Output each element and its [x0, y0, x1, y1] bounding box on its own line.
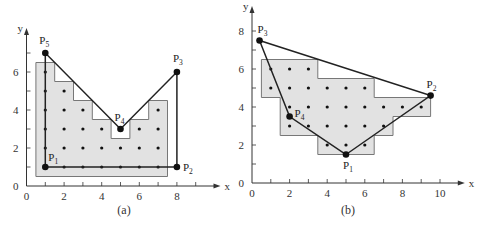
- x-tick-label: 8: [174, 190, 180, 202]
- pixel-dot: [119, 146, 122, 149]
- vertex-subscript: 3: [264, 29, 268, 38]
- pixel-dot: [307, 67, 310, 70]
- pixel-dot: [157, 127, 160, 130]
- vertex-label-p5: P5: [39, 34, 49, 49]
- vertex-label-p2: P2: [427, 78, 437, 93]
- pixel-dot: [288, 86, 291, 89]
- x-axis-arrow-icon: [214, 184, 221, 189]
- x-tick-label: 4: [99, 190, 105, 202]
- vertex-label-p1: P1: [343, 159, 353, 174]
- pixel-dot: [100, 146, 103, 149]
- y-tick-label: 0: [13, 180, 19, 192]
- pixel-dot: [363, 86, 366, 89]
- pixel-dot: [63, 146, 66, 149]
- y-tick-label: 8: [239, 25, 245, 37]
- vertex-subscript: 1: [54, 157, 58, 166]
- pixel-dot: [307, 86, 310, 89]
- y-tick-label: 2: [239, 139, 245, 151]
- pixel-dot: [326, 124, 329, 127]
- pixel-dot: [138, 146, 141, 149]
- vertex-point: [117, 126, 124, 133]
- pixel-dot: [363, 143, 366, 146]
- vertex-point: [174, 69, 181, 76]
- pixel-dot: [307, 124, 310, 127]
- pixel-dot: [63, 89, 66, 92]
- pixel-dot: [401, 105, 404, 108]
- x-tick-label: 0: [24, 190, 30, 202]
- vertex-subscript: 2: [433, 84, 437, 93]
- pixel-dot: [100, 127, 103, 130]
- pixel-dot: [363, 124, 366, 127]
- y-tick-label: 0: [239, 177, 245, 189]
- vertex-subscript: 5: [45, 40, 49, 49]
- pixel-dot: [326, 143, 329, 146]
- vertex-point: [256, 37, 263, 44]
- vertex-subscript: 4: [121, 117, 125, 126]
- x-axis-label: x: [469, 177, 475, 189]
- y-axis-arrow-icon: [250, 6, 255, 13]
- pixel-dot: [157, 108, 160, 111]
- pixel-dot: [288, 67, 291, 70]
- pixel-dot: [344, 105, 347, 108]
- pixel-dot: [63, 127, 66, 130]
- vertex-subscript: 2: [189, 167, 193, 176]
- y-tick-label: 6: [13, 66, 19, 78]
- vertex-label-p3: P3: [173, 52, 183, 67]
- pixel-dot: [382, 105, 385, 108]
- y-axis-label: y: [18, 22, 24, 34]
- x-tick-label: 10: [435, 187, 447, 199]
- panel-a: xy024680246P1P2P3P4P5: [13, 22, 231, 202]
- y-tick-label: 6: [239, 63, 245, 75]
- pixel-dot: [420, 105, 423, 108]
- y-tick-label: 4: [13, 104, 19, 116]
- pixel-dot: [326, 105, 329, 108]
- pixel-dot: [288, 105, 291, 108]
- pixel-dot: [81, 108, 84, 111]
- vertex-point: [343, 151, 350, 158]
- y-tick-label: 4: [239, 101, 245, 113]
- x-tick-label: 8: [400, 187, 406, 199]
- polygon-scan-conversion-figure: xy024680246P1P2P3P4P5 xy024681002468P1P2…: [0, 0, 485, 226]
- panel-b: xy024681002468P1P2P3P4: [239, 0, 475, 199]
- vertex-point: [42, 164, 49, 171]
- pixel-dot: [307, 105, 310, 108]
- vertex-point: [174, 164, 181, 171]
- vertex-point: [286, 113, 293, 120]
- pixel-dot: [344, 124, 347, 127]
- vertex-point: [427, 92, 434, 99]
- x-tick-label: 6: [362, 187, 368, 199]
- vertex-subscript: 1: [349, 165, 353, 174]
- pixel-dot: [138, 127, 141, 130]
- vertex-subscript: 4: [301, 113, 305, 122]
- x-axis-arrow-icon: [458, 181, 465, 186]
- pixel-dot: [326, 86, 329, 89]
- pixel-dot: [288, 124, 291, 127]
- caption-a: (a): [117, 203, 130, 217]
- y-axis-arrow-icon: [24, 28, 29, 35]
- x-tick-label: 2: [61, 190, 67, 202]
- x-axis-label: x: [225, 180, 231, 192]
- pixel-dot: [269, 86, 272, 89]
- y-axis-label: y: [243, 0, 249, 12]
- vertex-subscript: 3: [179, 58, 183, 67]
- x-tick-label: 0: [249, 187, 255, 199]
- vertex-label-p2: P2: [183, 161, 193, 176]
- pixel-dot: [344, 86, 347, 89]
- x-tick-label: 6: [137, 190, 143, 202]
- x-tick-label: 2: [287, 187, 293, 199]
- pixel-dot: [157, 146, 160, 149]
- pixel-dot: [344, 143, 347, 146]
- y-tick-label: 2: [13, 142, 19, 154]
- pixel-dot: [81, 127, 84, 130]
- vertex-label-p3: P3: [258, 23, 268, 38]
- x-tick-label: 4: [324, 187, 330, 199]
- caption-b: (b): [341, 203, 355, 217]
- pixel-dot: [81, 146, 84, 149]
- pixel-dot: [63, 108, 66, 111]
- vertex-point: [42, 50, 49, 57]
- pixel-dot: [363, 105, 366, 108]
